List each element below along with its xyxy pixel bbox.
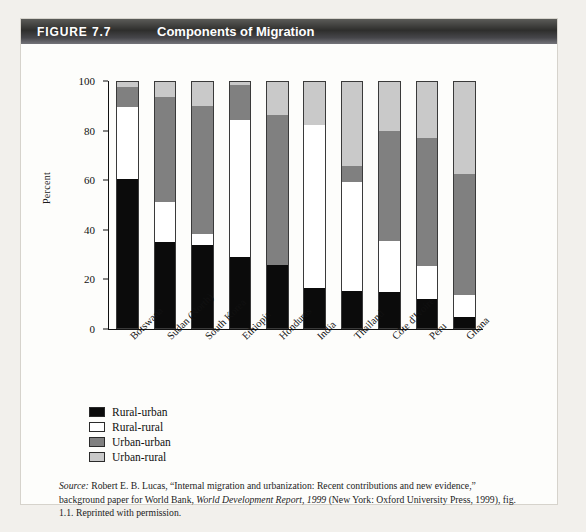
source-note: Source: Robert E. B. Lucas, “Internal mi… — [59, 479, 519, 520]
source-word: Source: — [59, 480, 89, 491]
bar-segment[interactable] — [192, 81, 212, 106]
bar-segment[interactable] — [117, 86, 137, 107]
bar-segment[interactable] — [417, 137, 437, 266]
bar-slot — [259, 81, 296, 329]
y-axis-label: Percent — [41, 172, 52, 204]
legend-item[interactable]: Rural-rural — [89, 419, 171, 434]
stacked-bar[interactable] — [191, 81, 213, 329]
legend-label: Rural-rural — [112, 421, 163, 433]
legend-label: Urban-rural — [112, 451, 166, 463]
bar-slot — [109, 81, 146, 329]
y-tick-label: 0 — [90, 323, 96, 335]
stacked-bar[interactable] — [303, 81, 325, 329]
stacked-bar[interactable] — [378, 81, 400, 329]
source-line-2-pre: background paper for World Bank, — [59, 494, 196, 505]
bar-segment[interactable] — [417, 265, 437, 299]
bar-segment[interactable] — [379, 240, 399, 292]
y-tick-label: 80 — [84, 125, 95, 137]
bar-segment[interactable] — [379, 81, 399, 131]
legend-label: Urban-urban — [112, 436, 171, 448]
source-line-2-italic: World Development Report, 1999 — [196, 494, 326, 505]
bar-segment[interactable] — [379, 292, 399, 328]
bar-segment[interactable] — [454, 173, 474, 294]
bar-segment[interactable] — [267, 81, 287, 115]
bar-segment[interactable] — [117, 179, 137, 328]
bar-segment[interactable] — [117, 81, 137, 87]
legend-swatch-icon — [89, 437, 105, 447]
legend-item[interactable]: Urban-urban — [89, 434, 171, 449]
legend-item[interactable]: Rural-urban — [89, 404, 171, 419]
bar-slot — [333, 81, 370, 329]
y-tick-label: 60 — [84, 174, 95, 186]
bar-segment[interactable] — [155, 81, 175, 97]
legend-swatch-icon — [89, 422, 105, 432]
bar-slot — [446, 81, 483, 329]
y-tick-label: 40 — [84, 224, 95, 236]
bar-segment[interactable] — [304, 124, 324, 289]
x-axis-labels: BotswanaSudan (North)South KoreaEthiopia… — [109, 332, 483, 392]
legend-swatch-icon — [89, 407, 105, 417]
source-line-1: Robert E. B. Lucas, “Internal migration … — [89, 480, 476, 491]
stacked-bar[interactable] — [453, 81, 475, 329]
bar-segment[interactable] — [192, 105, 212, 234]
bar-segment[interactable] — [192, 233, 212, 245]
bar-segment[interactable] — [155, 201, 175, 243]
bar-segment[interactable] — [454, 294, 474, 317]
bar-slot — [296, 81, 333, 329]
bar-segment[interactable] — [230, 119, 250, 258]
stacked-bar[interactable] — [266, 81, 288, 329]
bar-segment[interactable] — [230, 84, 250, 120]
bar-segment[interactable] — [230, 81, 250, 85]
bar-segment[interactable] — [304, 81, 324, 125]
bar-slot — [184, 81, 221, 329]
y-tick-label: 20 — [84, 273, 95, 285]
legend-swatch-icon — [89, 452, 105, 462]
bar-segment[interactable] — [342, 81, 362, 166]
stacked-bar[interactable] — [341, 81, 363, 329]
figure-number: FIGURE 7.7 — [37, 25, 137, 39]
stacked-bar[interactable] — [229, 81, 251, 329]
bar-segment[interactable] — [454, 81, 474, 174]
chart-legend: Rural-urbanRural-ruralUrban-urbanUrban-r… — [89, 404, 171, 464]
bar-segment[interactable] — [117, 106, 137, 179]
bar-segment[interactable] — [155, 96, 175, 201]
bar-segment[interactable] — [417, 81, 437, 138]
y-tick-label: 100 — [79, 75, 96, 87]
figure-container: FIGURE 7.7 Components of Migration Perce… — [20, 18, 558, 505]
bar-slot — [371, 81, 408, 329]
bar-segment[interactable] — [267, 114, 287, 265]
bar-slot — [408, 81, 445, 329]
y-axis-ticks: 020406080100 — [61, 81, 103, 329]
bar-segment[interactable] — [342, 291, 362, 328]
plot-bars — [109, 81, 483, 329]
legend-item[interactable]: Urban-rural — [89, 449, 171, 464]
bar-segment[interactable] — [342, 181, 362, 291]
source-line-2-post: (New York: Oxford University Press, — [326, 494, 473, 505]
chart-area: Percent 020406080100 BotswanaSudan (Nort… — [21, 44, 557, 374]
figure-header-bar: FIGURE 7.7 Components of Migration — [21, 19, 557, 44]
bar-slot — [146, 81, 183, 329]
stacked-bar[interactable] — [154, 81, 176, 329]
legend-label: Rural-urban — [112, 406, 168, 418]
figure-title: Components of Migration — [157, 24, 314, 39]
bar-segment[interactable] — [379, 130, 399, 241]
stacked-bar[interactable] — [416, 81, 438, 329]
bar-segment[interactable] — [342, 165, 362, 182]
bar-slot — [221, 81, 258, 329]
stacked-bar[interactable] — [116, 81, 138, 329]
